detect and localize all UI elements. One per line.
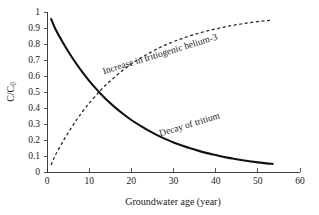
x-tick-label-40: 40 — [211, 176, 221, 186]
helium3-ingrowth-curve — [51, 20, 272, 165]
y-tick-label-0.2: 0.2 — [28, 135, 40, 145]
y-tick-label-0.6: 0.6 — [28, 71, 40, 81]
x-tick-label-20: 20 — [127, 176, 137, 186]
chart-canvas: 0 10 20 30 40 50 60 0 0.1 0.2 0.3 0.4 0.… — [0, 0, 319, 215]
x-tick-label-60: 60 — [295, 176, 305, 186]
y-axis-title-main: C/C — [5, 85, 16, 101]
tritium-decay-curve — [51, 19, 272, 164]
x-tick-label-50: 50 — [253, 176, 263, 186]
y-tick-label-0.7: 0.7 — [28, 55, 40, 65]
y-axis-title-subscript: 0 — [10, 82, 18, 86]
y-tick-label-0.3: 0.3 — [28, 119, 40, 129]
y-tick-label-0.5: 0.5 — [28, 87, 40, 97]
x-tick-label-10: 10 — [84, 176, 94, 186]
y-tick-marks — [44, 12, 48, 172]
x-tick-label-30: 30 — [169, 176, 179, 186]
y-tick-label-0.1: 0.1 — [28, 151, 40, 161]
y-tick-labels: 0 0.1 0.2 0.3 0.4 0.5 0.6 0.7 0.8 0.9 1 — [28, 7, 40, 177]
curve-annotations: Increase in tritiogenic helium-3 Decay o… — [101, 32, 221, 139]
y-tick-label-0.8: 0.8 — [28, 39, 40, 49]
tritium-curve-label: Decay of tritium — [158, 110, 222, 138]
y-tick-label-0.4: 0.4 — [28, 103, 40, 113]
x-tick-marks — [47, 168, 300, 172]
x-tick-label-0: 0 — [45, 176, 50, 186]
helium-3-curve-label: Increase in tritiogenic helium-3 — [101, 32, 218, 77]
series-curves — [51, 19, 272, 165]
svg-text:C/C0: C/C0 — [5, 82, 18, 102]
y-tick-label-0.9: 0.9 — [28, 23, 40, 33]
y-axis-title: C/C0 — [5, 82, 18, 102]
chart-figure: 0 10 20 30 40 50 60 0 0.1 0.2 0.3 0.4 0.… — [0, 0, 319, 215]
y-tick-label-0: 0 — [35, 167, 40, 177]
x-tick-labels: 0 10 20 30 40 50 60 — [45, 176, 305, 186]
axes-group — [47, 12, 300, 172]
x-axis-title: Groundwater age (year) — [125, 196, 221, 208]
y-tick-label-1: 1 — [35, 7, 40, 17]
